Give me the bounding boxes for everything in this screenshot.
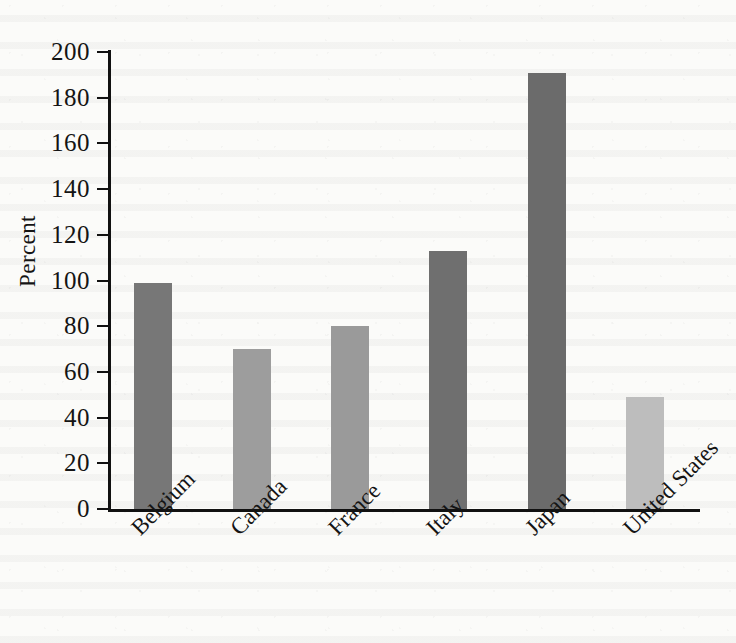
- y-axis-tick: [97, 280, 108, 282]
- bar-belgium[interactable]: [134, 283, 172, 509]
- bar-chart-figure: Percent 020406080100120140160180200 Belg…: [0, 0, 736, 643]
- bar-japan[interactable]: [528, 73, 566, 509]
- y-axis-tick-label: 40: [28, 405, 90, 430]
- y-axis-tick-label: 120: [28, 222, 90, 247]
- y-axis-tick: [97, 371, 108, 373]
- y-axis-tick: [97, 234, 108, 236]
- y-axis-tick-label: 60: [28, 359, 90, 384]
- y-axis-tick: [97, 51, 108, 53]
- y-axis-tick: [97, 97, 108, 99]
- y-axis-tick-label: 160: [28, 130, 90, 155]
- x-axis-spine: [108, 509, 700, 512]
- bar-italy[interactable]: [429, 251, 467, 509]
- y-axis-tick-label: 0: [28, 496, 90, 521]
- y-axis-tick: [97, 142, 108, 144]
- y-axis-tick-label: 100: [28, 268, 90, 293]
- y-axis-tick-label: 80: [28, 313, 90, 338]
- y-axis-tick-label: 140: [28, 176, 90, 201]
- y-axis-tick: [97, 462, 108, 464]
- y-axis-tick: [97, 508, 108, 510]
- y-axis-tick: [97, 417, 108, 419]
- y-axis-tick-label: 180: [28, 85, 90, 110]
- y-axis-tick-label: 20: [28, 450, 90, 475]
- y-axis-tick: [97, 325, 108, 327]
- y-axis-tick: [97, 188, 108, 190]
- plot-area: [110, 52, 700, 509]
- y-axis-tick-label: 200: [28, 39, 90, 64]
